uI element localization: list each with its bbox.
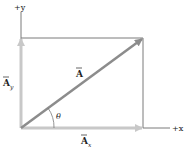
vector-components-diagram: +y +x A A y A x θ bbox=[0, 0, 190, 149]
vector-ax-label: A x bbox=[80, 135, 92, 148]
svg-text:A: A bbox=[75, 69, 84, 79]
angle-arc bbox=[48, 108, 54, 128]
x-axis-label: +x bbox=[172, 124, 184, 133]
vector-ay-label: A y bbox=[2, 77, 14, 91]
vector-a bbox=[21, 39, 142, 128]
angle-theta-label: θ bbox=[56, 112, 61, 121]
vector-a-label: A bbox=[75, 68, 84, 79]
y-axis-label: +y bbox=[14, 3, 26, 12]
svg-text:y: y bbox=[9, 83, 14, 91]
svg-text:x: x bbox=[88, 141, 92, 148]
